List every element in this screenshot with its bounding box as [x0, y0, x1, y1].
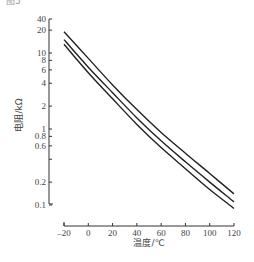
y-tick-label: 20: [37, 25, 47, 35]
y-axis-title: 电阻/kΩ: [13, 98, 24, 131]
resistance-temperature-chart: 402010864210.80.60.20.1 –200204060801001…: [0, 0, 254, 262]
y-tick-label: 0.8: [35, 131, 47, 141]
y-tick-label: 0.6: [35, 141, 47, 151]
x-axis: –20020406080100120: [56, 222, 241, 238]
x-tick-label: 20: [108, 228, 118, 238]
y-tick-label: 40: [37, 14, 47, 24]
y-tick-label: 6: [42, 65, 47, 75]
y-axis: 402010864210.80.60.20.1: [35, 14, 53, 210]
x-tick-label: 80: [181, 228, 191, 238]
series-lines: [64, 32, 234, 209]
x-tick-label: –20: [56, 228, 71, 238]
x-axis-title: 温度/℃: [133, 237, 164, 248]
x-tick-label: 100: [203, 228, 217, 238]
x-tick-label: 120: [227, 228, 241, 238]
x-tick-label: 60: [157, 228, 167, 238]
x-tick-label: 40: [132, 228, 142, 238]
y-tick-label: 0.1: [35, 200, 46, 210]
x-tick-label: 0: [86, 228, 91, 238]
y-tick-label: 8: [42, 55, 47, 65]
y-tick-label: 4: [42, 78, 47, 88]
y-tick-label: 2: [42, 101, 47, 111]
y-tick-label: 0.2: [35, 177, 46, 187]
series-line-upper: [64, 32, 234, 194]
